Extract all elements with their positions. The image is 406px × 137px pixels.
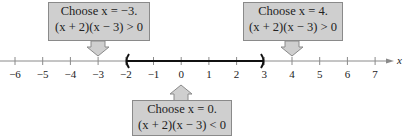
callout-right: Choose x = 4. (x + 2)(x − 3) > 0 <box>243 2 343 41</box>
tick-label: 3 <box>262 68 268 80</box>
tick-label: 1 <box>206 68 212 80</box>
axis-variable-label: x <box>397 54 402 66</box>
axis-arrow-icon <box>386 59 394 64</box>
tick-label: 6 <box>345 68 351 80</box>
tick-label: −3 <box>92 68 104 80</box>
tick-label: 4 <box>289 68 295 80</box>
left-pointer-arrow-icon <box>87 41 109 56</box>
callout-right-line1: Choose x = 4. <box>244 3 342 19</box>
tick-label: 0 <box>178 68 184 80</box>
callout-middle: Choose x = 0. (x + 2)(x − 3) < 0 <box>132 100 232 136</box>
callout-left-line2: (x + 2)(x − 3) > 0 <box>49 19 149 35</box>
right-pointer-arrow-icon <box>281 41 303 56</box>
tick-label: −2 <box>120 68 132 80</box>
tick-label: −5 <box>37 68 49 80</box>
callout-middle-line2: (x + 2)(x − 3) < 0 <box>133 117 231 133</box>
middle-pointer-arrow-icon <box>170 85 192 101</box>
tick-label: −1 <box>148 68 160 80</box>
tick-label: 5 <box>317 68 323 80</box>
tick-label: −4 <box>65 68 77 80</box>
tick-label: 2 <box>234 68 240 80</box>
callout-middle-line1: Choose x = 0. <box>133 101 231 117</box>
tick-label: −6 <box>9 68 21 80</box>
callout-right-line2: (x + 2)(x − 3) > 0 <box>244 19 342 35</box>
callout-left-line1: Choose x = −3. <box>49 3 149 19</box>
tick-label: 7 <box>372 68 378 80</box>
callout-left: Choose x = −3. (x + 2)(x − 3) > 0 <box>48 2 150 41</box>
